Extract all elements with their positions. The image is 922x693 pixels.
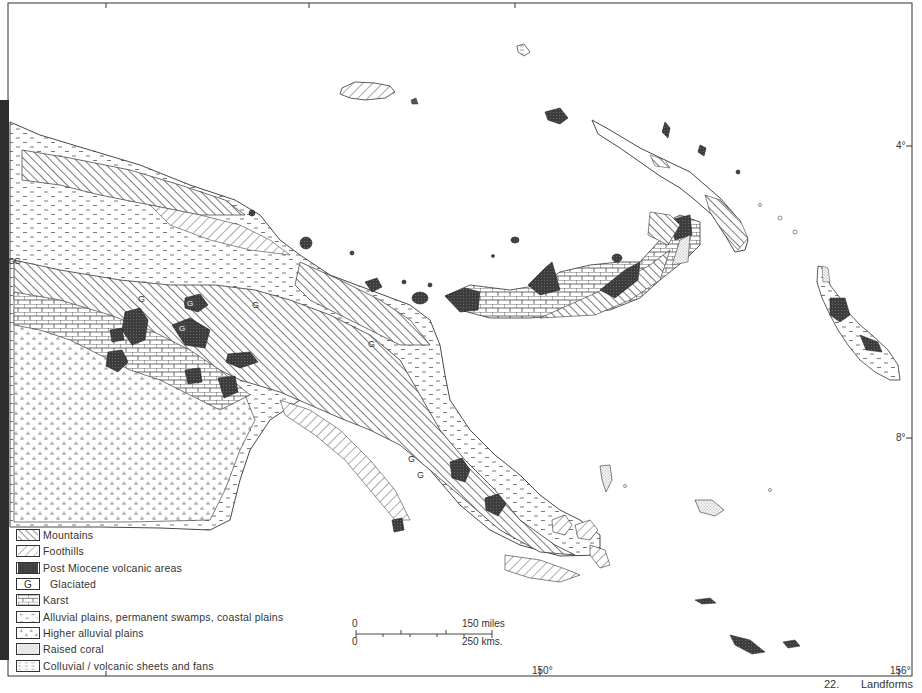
volcanic-swatch-icon <box>16 562 40 574</box>
map-legend: Mountains Foothills Post Miocene volcani… <box>16 527 283 674</box>
alluvial-swatch-icon <box>16 611 40 623</box>
raised-coral-swatch-icon <box>16 643 40 655</box>
scale-bottom-end: 250 kms. <box>462 636 503 647</box>
higher-alluvial-swatch-icon <box>16 627 40 639</box>
colluvial-swatch-icon <box>16 660 40 672</box>
legend-item-raised-coral: Raised coral <box>16 641 283 657</box>
svg-text:G: G <box>14 256 21 266</box>
legend-item-higher-alluvial: Higher alluvial plains <box>16 625 283 641</box>
longitude-label-156: 156° <box>890 665 911 676</box>
legend-item-karst: Karst <box>16 592 283 608</box>
scale-top-start: 0 <box>352 618 358 629</box>
svg-text:G: G <box>138 294 145 304</box>
latitude-label-4: 4° <box>896 140 906 151</box>
mountains-swatch-icon <box>16 529 40 541</box>
glaciated-swatch-icon: G <box>16 578 40 590</box>
svg-text:G: G <box>187 299 193 308</box>
svg-text:G: G <box>179 324 185 333</box>
legend-item-mountains: Mountains <box>16 527 283 543</box>
karst-swatch-icon <box>16 594 40 606</box>
legend-item-colluvial: Colluvial / volcanic sheets and fans <box>16 657 283 673</box>
legend-item-alluvial: Alluvial plains, permanent swamps, coast… <box>16 608 283 624</box>
figure-number: 22. <box>824 678 839 690</box>
svg-text:G: G <box>408 454 415 464</box>
latitude-label-8: 8° <box>896 432 906 443</box>
scale-top-end: 150 miles <box>462 618 505 629</box>
svg-text:G: G <box>417 470 424 480</box>
svg-text:G: G <box>252 300 259 310</box>
scale-bar: 0 150 miles 0 250 kms. <box>352 618 492 658</box>
legend-item-foothills: Foothills <box>16 543 283 559</box>
foothills-swatch-icon <box>16 545 40 557</box>
left-binding-edge <box>0 100 9 660</box>
figure-title: Landforms <box>861 678 913 690</box>
legend-item-volcanic: Post Miocene volcanic areas <box>16 560 283 576</box>
svg-text:G: G <box>368 339 375 349</box>
scale-bottom-start: 0 <box>352 636 358 647</box>
longitude-label-150: 150° <box>532 665 553 676</box>
legend-item-glaciated: G Glaciated <box>16 576 283 592</box>
